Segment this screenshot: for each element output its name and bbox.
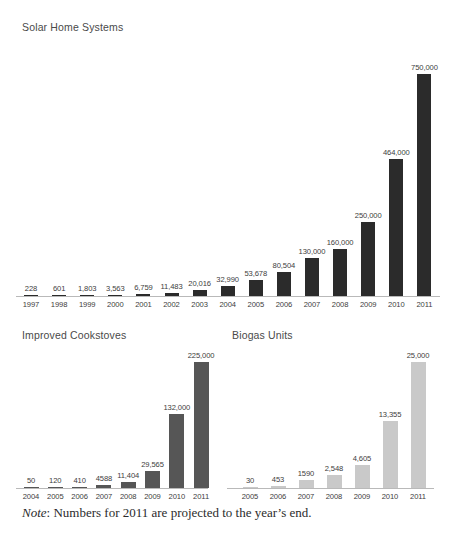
chart-solar-home-systems: Solar Home Systems 228199760119981,80319… [0,0,449,320]
bar-value-label: 130,000 [292,247,332,256]
x-tick-label: 2002 [157,300,185,309]
bar-value-label: 464,000 [376,148,416,157]
x-tick-label: 2010 [165,492,189,501]
x-tick-label: 2010 [382,300,410,309]
bar-value-label: 750,000 [404,63,444,72]
x-tick-label: 1997 [17,300,45,309]
bar [165,293,179,296]
x-tick-label: 2010 [376,492,404,501]
bar [80,295,94,296]
bar-value-label: 2,548 [314,464,354,473]
bar-value-label: 132,000 [159,403,195,412]
bar [96,485,111,488]
x-tick-label: 2004 [214,300,242,309]
x-tick-label: 2011 [404,492,432,501]
x-tick-label: 2007 [92,492,116,501]
bar [417,74,431,296]
x-tick-label: 2000 [101,300,129,309]
x-axis-line-biogas [227,488,434,489]
x-tick-label: 2005 [242,300,270,309]
figure-note: Note: Numbers for 2011 are projected to … [22,505,312,521]
x-tick-label: 1999 [73,300,101,309]
bar [48,487,63,488]
x-tick-label: 2006 [264,492,292,501]
bar-value-label: 29,565 [134,460,170,469]
x-tick-label: 2011 [189,492,213,501]
x-tick-label: 2007 [298,300,326,309]
chart-title-improved-cookstoves: Improved Cookstoves [22,329,126,341]
bar [24,295,38,296]
bar [24,487,39,488]
bar [327,475,342,488]
bar [361,222,375,296]
bar [169,414,184,488]
bar [389,159,403,296]
bar [411,362,426,488]
plot-area-solar-home-systems: 228199760119981,80319993,56320006,759200… [16,36,440,297]
bar [121,482,136,488]
bar [305,258,319,296]
x-tick-label: 2006 [67,492,91,501]
x-tick-label: 1998 [45,300,73,309]
x-axis-line-cookstove [16,488,208,489]
bar-value-label: 160,000 [320,238,360,247]
x-tick-label: 2009 [140,492,164,501]
x-tick-label: 2008 [326,300,354,309]
x-tick-label: 2001 [129,300,157,309]
x-axis-line-solar [16,296,440,297]
x-tick-label: 2005 [236,492,264,501]
bar-value-label: 4,605 [342,454,382,463]
chart-title-solar-home-systems: Solar Home Systems [22,21,123,33]
bar-value-label: 250,000 [348,211,388,220]
x-tick-label: 2003 [186,300,214,309]
chart-biogas-units: Biogas Units 3020054532006159020072,5482… [225,320,449,505]
bar-value-label: 80,504 [264,261,304,270]
chart-title-biogas-units: Biogas Units [232,329,293,341]
bar-value-label: 13,355 [370,410,410,419]
figure-note-text: Numbers for 2011 are projected to the ye… [53,505,311,520]
x-tick-label: 2008 [320,492,348,501]
x-tick-label: 2008 [116,492,140,501]
bar [145,471,160,488]
bar [52,295,66,296]
x-tick-label: 2009 [348,492,376,501]
bar [277,272,291,296]
figure-note-emphasis: Note [22,505,47,520]
bar [299,480,314,488]
plot-area-biogas-units: 3020054532006159020072,54820084,60520091… [227,344,434,489]
bar [72,487,87,488]
bar [193,290,207,296]
bar [383,421,398,488]
bar [249,280,263,296]
bar [136,294,150,296]
x-tick-label: 2005 [43,492,67,501]
x-tick-label: 2006 [270,300,298,309]
bar-value-label: 53,678 [236,269,276,278]
x-tick-label: 2011 [410,300,438,309]
x-tick-label: 2007 [292,492,320,501]
bar-value-label: 225,000 [183,351,219,360]
bar [194,362,209,488]
bar [355,465,370,488]
bar-value-label: 25,000 [398,351,438,360]
bar [108,295,122,296]
plot-area-improved-cookstoves: 502004120200541020064588200711,404200829… [16,344,208,489]
bar-value-label: 11,404 [110,471,146,480]
chart-improved-cookstoves: Improved Cookstoves 50200412020054102006… [0,320,225,505]
bar [333,249,347,296]
x-tick-label: 2009 [354,300,382,309]
bar [243,487,258,488]
figure-container: Solar Home Systems 228199760119981,80319… [0,0,449,537]
bar [221,286,235,296]
x-tick-label: 2004 [19,492,43,501]
bar [271,486,286,488]
